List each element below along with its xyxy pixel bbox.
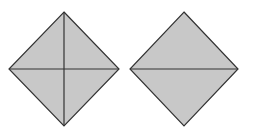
diamond-four-parts xyxy=(9,12,119,126)
diamonds-figure xyxy=(0,0,253,131)
diamond-two-parts xyxy=(130,12,238,126)
